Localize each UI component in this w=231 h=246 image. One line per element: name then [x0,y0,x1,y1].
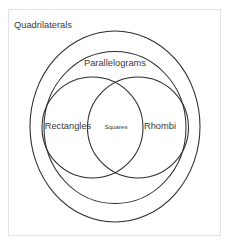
parallelograms-label: Parallelograms [84,58,146,68]
venn-diagram-canvas: Quadrilaterals Parallelograms Rectangles… [0,0,231,246]
rectangles-label: Rectangles [45,121,92,131]
rhombi-label: Rhombi [144,121,176,131]
quadrilaterals-label: Quadrilaterals [14,20,72,30]
venn-diagram-svg: Quadrilaterals Parallelograms Rectangles… [0,0,231,246]
squares-label: Squares [104,123,127,130]
